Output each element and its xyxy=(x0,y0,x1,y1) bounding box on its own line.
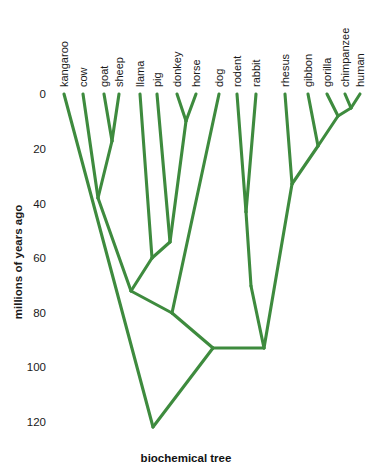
branch-artiodactyl-equidpig xyxy=(152,242,170,258)
tip-label-cow: cow xyxy=(77,67,89,87)
figure-caption: biochemical tree xyxy=(141,452,232,464)
tip-label-rhesus: rhesus xyxy=(279,53,291,87)
tick-label-0: 0 xyxy=(40,88,46,100)
branch-kangaroo xyxy=(64,94,153,427)
branch-catarrhine-hominoid xyxy=(292,146,318,184)
tip-label-gibbon: gibbon xyxy=(302,54,314,87)
tip-label-kangaroo: kangaroo xyxy=(58,41,70,87)
tip-label-rabbit: rabbit xyxy=(250,59,262,87)
branch-human xyxy=(351,94,360,108)
branch-horse xyxy=(186,94,196,121)
branch-rabbit xyxy=(246,94,256,212)
branch-euarchontoglires-glires xyxy=(251,286,264,348)
tip-label-donkey: donkey xyxy=(171,51,183,87)
tree-branch-group xyxy=(64,94,360,427)
branch-cow xyxy=(83,94,98,198)
branch-placental-laurasiatheria xyxy=(172,313,213,348)
branch-root-placental xyxy=(153,348,213,427)
tip-label-chimpanzee: chimpanzee xyxy=(339,28,351,87)
tick-label-100: 100 xyxy=(27,361,46,373)
branch-gibbon xyxy=(308,94,318,146)
branch-donkey xyxy=(177,94,186,121)
branch-equidpig-donkeyhorse xyxy=(170,121,186,242)
tip-label-horse: horse xyxy=(190,59,202,87)
branch-hominoid-gorillaclade xyxy=(318,116,338,146)
tip-label-goat: goat xyxy=(98,66,110,87)
branch-glires-stem xyxy=(246,212,251,286)
tick-label-40: 40 xyxy=(33,198,46,210)
branch-pig xyxy=(157,94,170,242)
branch-ungulate-artiodactyl xyxy=(131,258,152,291)
tick-label-60: 60 xyxy=(33,252,46,264)
tip-label-gorilla: gorilla xyxy=(321,57,333,87)
tick-label-20: 20 xyxy=(33,143,46,155)
tree-diagram: kangaroo cow goat sheep llama pig donkey… xyxy=(0,0,371,476)
tip-label-llama: llama xyxy=(134,60,146,87)
branch-goat xyxy=(104,94,112,141)
tip-label-sheep: sheep xyxy=(113,57,125,87)
tip-label-rodent: rodent xyxy=(231,56,243,87)
tick-label-80: 80 xyxy=(33,307,46,319)
branch-llama xyxy=(140,94,152,258)
branch-rodent xyxy=(237,94,246,212)
branch-rhesus xyxy=(285,94,292,184)
tip-label-pig: pig xyxy=(151,72,163,87)
branch-dog xyxy=(172,94,219,313)
branch-laurasiatheria-ungulate xyxy=(131,291,172,313)
tip-label-human: human xyxy=(354,53,366,87)
y-axis-tick-group: 0 20 40 60 80 100 120 xyxy=(27,88,46,428)
branch-chimpanzee xyxy=(345,94,351,108)
biochemical-tree-figure: kangaroo cow goat sheep llama pig donkey… xyxy=(0,0,371,476)
tick-label-120: 120 xyxy=(27,416,46,428)
branch-gorillaclade-humanchimp xyxy=(338,108,351,116)
branch-ovis-goatsheep xyxy=(98,141,112,198)
branch-sheep xyxy=(112,94,119,141)
y-axis-title: millions of years ago xyxy=(12,205,24,319)
tip-label-group: kangaroo cow goat sheep llama pig donkey… xyxy=(58,28,366,87)
branch-euarchontoglires-catarrhine xyxy=(264,184,292,348)
tip-label-dog: dog xyxy=(213,69,225,87)
branch-gorilla xyxy=(327,94,338,116)
